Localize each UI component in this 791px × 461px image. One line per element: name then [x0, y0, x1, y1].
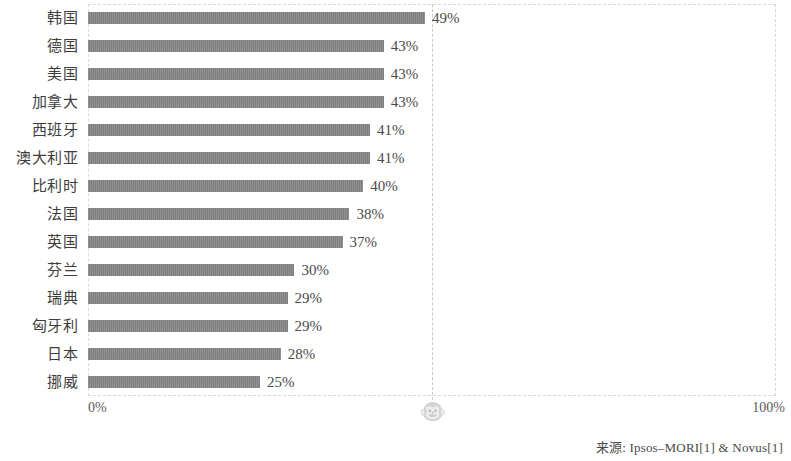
category-label: 匈牙利 — [0, 312, 78, 340]
table-row: 澳大利亚41% — [0, 144, 791, 172]
category-label: 挪威 — [0, 368, 78, 396]
monkey-face-icon: 🐵 — [415, 398, 449, 426]
bar-value-label: 43% — [391, 60, 419, 88]
table-row: 匈牙利29% — [0, 312, 791, 340]
table-row: 比利时40% — [0, 172, 791, 200]
bar — [88, 208, 349, 220]
bar-value-label: 38% — [356, 200, 384, 228]
bar — [88, 12, 425, 24]
bar — [88, 348, 281, 360]
table-row: 英国37% — [0, 228, 791, 256]
bar — [88, 96, 384, 108]
category-label: 法国 — [0, 200, 78, 228]
category-label: 芬兰 — [0, 256, 78, 284]
source-note: 来源: Ipsos–MORI[1] & Novus[1] — [596, 437, 783, 456]
bar-value-label: 37% — [350, 228, 378, 256]
x-axis-tick-max: 100% — [686, 400, 785, 416]
bar — [88, 376, 260, 388]
category-label: 加拿大 — [0, 88, 78, 116]
category-label: 比利时 — [0, 172, 78, 200]
bar-value-label: 49% — [432, 4, 460, 32]
table-row: 加拿大43% — [0, 88, 791, 116]
table-row: 瑞典29% — [0, 284, 791, 312]
bar-value-label: 29% — [295, 312, 323, 340]
bar-value-label: 43% — [391, 88, 419, 116]
bar — [88, 236, 343, 248]
bar-value-label: 41% — [377, 144, 405, 172]
bar-value-label: 28% — [288, 340, 316, 368]
bar — [88, 264, 294, 276]
table-row: 法国38% — [0, 200, 791, 228]
category-label: 英国 — [0, 228, 78, 256]
table-row: 挪威25% — [0, 368, 791, 396]
table-row: 德国43% — [0, 32, 791, 60]
bar — [88, 152, 370, 164]
bar-value-label: 29% — [295, 284, 323, 312]
bar-value-label: 30% — [301, 256, 329, 284]
bar — [88, 68, 384, 80]
category-label: 澳大利亚 — [0, 144, 78, 172]
bar-value-label: 40% — [370, 172, 398, 200]
bar — [88, 124, 370, 136]
table-row: 西班牙41% — [0, 116, 791, 144]
table-row: 日本28% — [0, 340, 791, 368]
bar — [88, 180, 363, 192]
bar-value-label: 25% — [267, 368, 295, 396]
bar-value-label: 41% — [377, 116, 405, 144]
category-label: 德国 — [0, 32, 78, 60]
category-label: 西班牙 — [0, 116, 78, 144]
bar — [88, 292, 288, 304]
bar — [88, 320, 288, 332]
table-row: 韩国49% — [0, 4, 791, 32]
x-axis-tick-min: 0% — [88, 400, 107, 416]
bar-rows: 韩国49%德国43%美国43%加拿大43%西班牙41%澳大利亚41%比利时40%… — [0, 4, 791, 396]
bar — [88, 40, 384, 52]
bar-value-label: 43% — [391, 32, 419, 60]
bar-chart: 韩国49%德国43%美国43%加拿大43%西班牙41%澳大利亚41%比利时40%… — [0, 0, 791, 461]
category-label: 瑞典 — [0, 284, 78, 312]
table-row: 美国43% — [0, 60, 791, 88]
table-row: 芬兰30% — [0, 256, 791, 284]
category-label: 韩国 — [0, 4, 78, 32]
category-label: 日本 — [0, 340, 78, 368]
category-label: 美国 — [0, 60, 78, 88]
